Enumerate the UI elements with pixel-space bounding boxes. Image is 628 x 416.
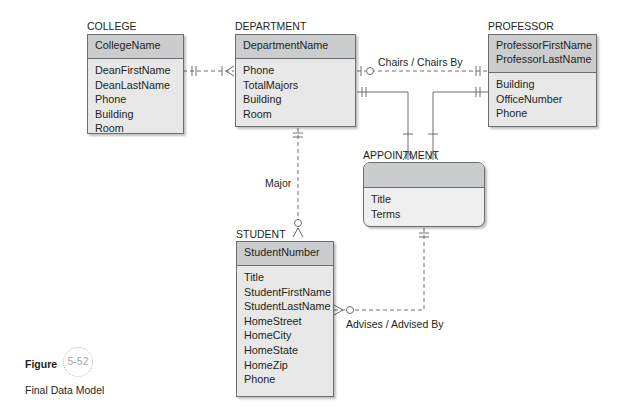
- student-attr: Phone: [244, 372, 326, 387]
- figure-number-badge: 5-52: [63, 347, 93, 377]
- student-key-studentnumber: StudentNumber: [244, 245, 326, 259]
- department-key-departmentname: DepartmentName: [243, 38, 348, 52]
- college-key-collegename: CollegeName: [95, 38, 176, 52]
- chairs-label: Chairs / Chairs By: [378, 56, 463, 68]
- appointment-title: APPOINTMENT: [363, 149, 439, 161]
- department-attr: Phone: [243, 63, 348, 78]
- student-attr: HomeStreet: [244, 314, 326, 329]
- figure-label: Figure: [25, 358, 57, 370]
- professor-entity[interactable]: ProfessorFirstName ProfessorLastName Bui…: [488, 34, 597, 127]
- student-attr: HomeState: [244, 343, 326, 358]
- department-key: DepartmentName: [236, 35, 355, 59]
- department-title: DEPARTMENT: [235, 20, 306, 32]
- student-key: StudentNumber: [237, 242, 333, 266]
- student-entity[interactable]: StudentNumber Title StudentFirstName Stu…: [236, 241, 334, 397]
- department-entity[interactable]: DepartmentName Phone TotalMajors Buildin…: [235, 34, 356, 127]
- student-attr: StudentFirstName: [244, 285, 326, 300]
- professor-attributes: Building OfficeNumber Phone: [489, 73, 596, 121]
- professor-key-firstname: ProfessorFirstName: [496, 38, 589, 52]
- figure-caption: Final Data Model: [25, 384, 104, 396]
- college-attr: DeanLastName: [95, 78, 176, 93]
- appointment-attr: Title: [371, 192, 477, 207]
- college-key: CollegeName: [88, 35, 183, 59]
- advises-label: Advises / Advised By: [346, 318, 443, 330]
- department-attr: TotalMajors: [243, 78, 348, 93]
- department-attr: Building: [243, 92, 348, 107]
- professor-attr: Phone: [496, 106, 589, 121]
- department-attr: Room: [243, 107, 348, 122]
- advises-relationship: [334, 228, 429, 315]
- major-relationship: [293, 128, 303, 237]
- college-attr: Building: [95, 107, 176, 122]
- college-entity[interactable]: CollegeName DeanFirstName DeanLastName P…: [87, 34, 184, 134]
- student-title: STUDENT: [236, 228, 286, 240]
- appointment-attr: Terms: [371, 207, 477, 222]
- appointment-entity[interactable]: Title Terms: [363, 162, 485, 227]
- professor-key-lastname: ProfessorLastName: [496, 52, 589, 66]
- college-attr: Room: [95, 121, 176, 136]
- department-attributes: Phone TotalMajors Building Room: [236, 59, 355, 121]
- appointment-attributes: Title Terms: [364, 188, 484, 221]
- appointment-key: [364, 163, 484, 188]
- student-attributes: Title StudentFirstName StudentLastName H…: [237, 266, 333, 387]
- college-attributes: DeanFirstName DeanLastName Phone Buildin…: [88, 59, 183, 136]
- college-department-relationship: [183, 66, 234, 76]
- student-attr: HomeZip: [244, 358, 326, 373]
- student-attr: HomeCity: [244, 328, 326, 343]
- major-label: Major: [265, 177, 291, 189]
- college-title: COLLEGE: [87, 20, 137, 32]
- student-attr: Title: [244, 270, 326, 285]
- student-attr: StudentLastName: [244, 299, 326, 314]
- college-attr: DeanFirstName: [95, 63, 176, 78]
- professor-attr: Building: [496, 77, 589, 92]
- college-attr: Phone: [95, 92, 176, 107]
- professor-attr: OfficeNumber: [496, 92, 589, 107]
- professor-title: PROFESSOR: [488, 20, 554, 32]
- professor-key: ProfessorFirstName ProfessorLastName: [489, 35, 596, 73]
